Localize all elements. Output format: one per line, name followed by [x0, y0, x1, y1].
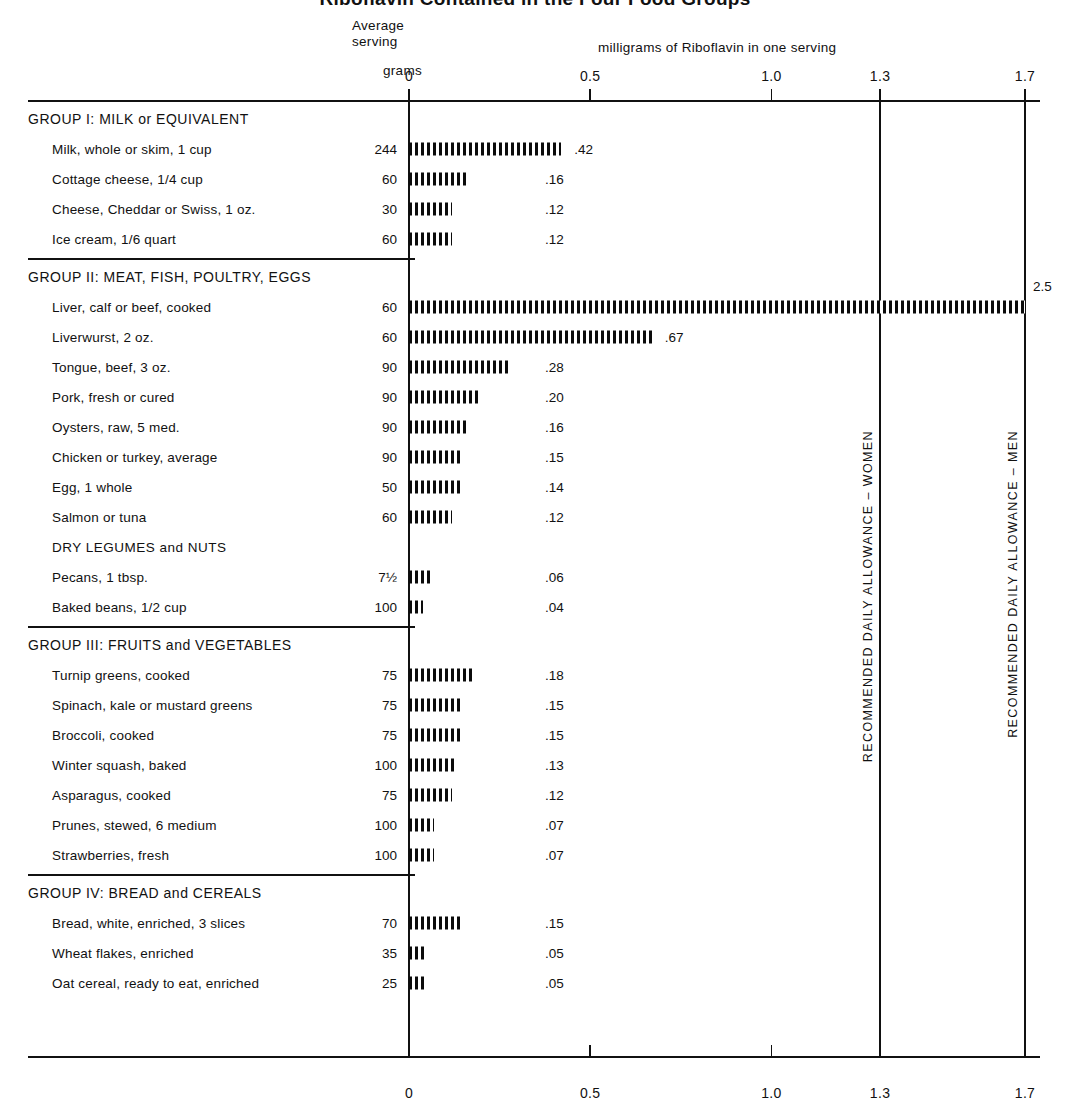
- serving-grams: 244: [327, 142, 397, 157]
- value-label: .20: [545, 390, 564, 405]
- chart-title: Riboflavin Contained in the Four Food Gr…: [0, 0, 1070, 10]
- value-label: .15: [545, 450, 564, 465]
- value-label: .28: [545, 360, 564, 375]
- axis-tick-label-top-1.7: 1.7: [1015, 68, 1035, 84]
- serving-grams: 7½: [327, 570, 397, 585]
- serving-grams: 70: [327, 916, 397, 931]
- data-row: Oat cereal, ready to eat, enriched25.05: [0, 968, 1070, 998]
- food-label: Oat cereal, ready to eat, enriched: [52, 976, 259, 991]
- data-row: Oysters, raw, 5 med.90.16: [0, 412, 1070, 442]
- serving-grams: 60: [327, 300, 397, 315]
- data-row: Milk, whole or skim, 1 cup244.42: [0, 134, 1070, 164]
- food-label: Oysters, raw, 5 med.: [52, 420, 180, 435]
- data-row: Pecans, 1 tbsp.7½.06: [0, 562, 1070, 592]
- value-label: .05: [545, 946, 564, 961]
- food-label: Chicken or turkey, average: [52, 450, 218, 465]
- subgroup-label: DRY LEGUMES and NUTS: [52, 540, 227, 555]
- horizontal-rule: [28, 258, 415, 260]
- data-row: Liverwurst, 2 oz.60.67: [0, 322, 1070, 352]
- serving-grams: 60: [327, 172, 397, 187]
- value-label: .14: [545, 480, 564, 495]
- food-label: Liver, calf or beef, cooked: [52, 300, 211, 315]
- data-row: Broccoli, cooked75.15: [0, 720, 1070, 750]
- food-label: Tongue, beef, 3 oz.: [52, 360, 171, 375]
- average-serving-header: Average serving: [352, 18, 404, 50]
- data-row: Bread, white, enriched, 3 slices70.15: [0, 908, 1070, 938]
- value-bar: [409, 451, 463, 464]
- serving-label: serving: [352, 34, 404, 50]
- data-row: Chicken or turkey, average90.15: [0, 442, 1070, 472]
- food-label: Salmon or tuna: [52, 510, 146, 525]
- data-row: Turnip greens, cooked75.18: [0, 660, 1070, 690]
- axis-tick-label-bottom-1.7: 1.7: [1015, 1085, 1035, 1101]
- group-header-row: GROUP III: FRUITS and VEGETABLES: [0, 630, 1070, 660]
- food-label: Spinach, kale or mustard greens: [52, 698, 253, 713]
- food-label: Ice cream, 1/6 quart: [52, 232, 176, 247]
- food-label: Asparagus, cooked: [52, 788, 171, 803]
- data-row: Tongue, beef, 3 oz.90.28: [0, 352, 1070, 382]
- value-label: .67: [665, 330, 684, 345]
- subgroup-row: DRY LEGUMES and NUTS: [0, 532, 1070, 562]
- value-bar: [409, 789, 452, 802]
- rda-men-label: RECOMMENDED DAILY ALLOWANCE – MEN: [1006, 430, 1020, 738]
- serving-grams: 100: [327, 758, 397, 773]
- axis-tick-label-bottom-1.3: 1.3: [870, 1085, 890, 1101]
- group-title: GROUP IV: BREAD and CEREALS: [28, 885, 262, 901]
- value-bar: [409, 977, 427, 990]
- value-label: .05: [545, 976, 564, 991]
- serving-grams: 30: [327, 202, 397, 217]
- food-label: Wheat flakes, enriched: [52, 946, 194, 961]
- horizontal-rule: [28, 874, 415, 876]
- food-label: Milk, whole or skim, 1 cup: [52, 142, 212, 157]
- value-bar: [409, 361, 510, 374]
- data-row: Prunes, stewed, 6 medium100.07: [0, 810, 1070, 840]
- food-label: Prunes, stewed, 6 medium: [52, 818, 217, 833]
- food-label: Pork, fresh or cured: [52, 390, 175, 405]
- data-row: Cheese, Cheddar or Swiss, 1 oz.30.12: [0, 194, 1070, 224]
- value-bar: [409, 173, 467, 186]
- data-row: Liver, calf or beef, cooked602.5: [0, 292, 1070, 322]
- serving-grams: 90: [327, 390, 397, 405]
- food-label: Liverwurst, 2 oz.: [52, 330, 154, 345]
- data-row: Asparagus, cooked75.12: [0, 780, 1070, 810]
- food-label: Egg, 1 whole: [52, 480, 132, 495]
- value-label: .15: [545, 728, 564, 743]
- food-label: Cheese, Cheddar or Swiss, 1 oz.: [52, 202, 256, 217]
- data-row: Winter squash, baked100.13: [0, 750, 1070, 780]
- data-row: Wheat flakes, enriched35.05: [0, 938, 1070, 968]
- value-bar: [409, 729, 463, 742]
- axis-tick-label-top-0: 0: [405, 68, 413, 84]
- axis-tick-label-bottom-1.0: 1.0: [761, 1085, 781, 1101]
- chart-sheet: Riboflavin Contained in the Four Food Gr…: [0, 0, 1070, 1120]
- serving-grams: 90: [327, 420, 397, 435]
- value-bar: [409, 669, 474, 682]
- axis-tick-label-top-1.0: 1.0: [761, 68, 781, 84]
- food-label: Baked beans, 1/2 cup: [52, 600, 187, 615]
- value-bar: [409, 421, 467, 434]
- serving-grams: 50: [327, 480, 397, 495]
- axis-tick-label-top-0.5: 0.5: [580, 68, 600, 84]
- serving-grams: 75: [327, 698, 397, 713]
- value-bar: [409, 391, 481, 404]
- value-label: .12: [545, 788, 564, 803]
- group-header-row: GROUP I: MILK or EQUIVALENT: [0, 104, 1070, 134]
- serving-grams: 60: [327, 330, 397, 345]
- serving-grams: 100: [327, 848, 397, 863]
- value-label: .06: [545, 570, 564, 585]
- serving-grams: 100: [327, 600, 397, 615]
- serving-grams: 60: [327, 232, 397, 247]
- group-title: GROUP II: MEAT, FISH, POULTRY, EGGS: [28, 269, 311, 285]
- axis-tick-label-top-1.3: 1.3: [870, 68, 890, 84]
- value-label: .16: [545, 172, 564, 187]
- serving-grams: 75: [327, 728, 397, 743]
- value-label: .12: [545, 232, 564, 247]
- data-row: Ice cream, 1/6 quart60.12: [0, 224, 1070, 254]
- value-label: .07: [545, 848, 564, 863]
- data-row: Baked beans, 1/2 cup100.04: [0, 592, 1070, 622]
- food-label: Cottage cheese, 1/4 cup: [52, 172, 203, 187]
- value-bar: [409, 143, 561, 156]
- horizontal-rule: [28, 626, 415, 628]
- data-row: Pork, fresh or cured90.20: [0, 382, 1070, 412]
- data-row: Salmon or tuna60.12: [0, 502, 1070, 532]
- value-bar: [409, 849, 434, 862]
